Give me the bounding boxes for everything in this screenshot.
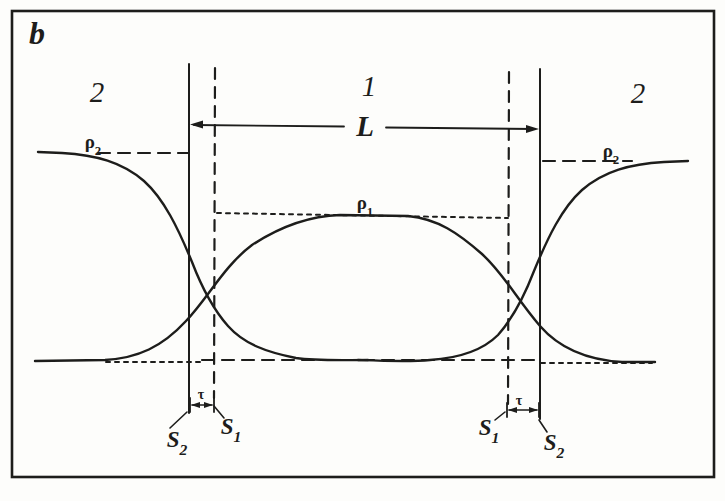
- rho2-curve-right: [358, 161, 688, 361]
- s1-left-base: S: [221, 414, 234, 439]
- s1-right-base: S: [479, 415, 492, 440]
- s1-right-label: S1: [479, 416, 500, 439]
- s1-left-label: S1: [221, 415, 242, 438]
- panel-label: b: [29, 17, 45, 49]
- rho2-right-base: ρ: [603, 140, 613, 161]
- s2-right-sub: 2: [556, 443, 564, 460]
- tau-label-right: τ: [516, 394, 522, 408]
- length-label: L: [356, 112, 374, 141]
- s1-left-sub: 1: [233, 427, 241, 444]
- length-arrow-line-right: [386, 128, 535, 130]
- tau-arrowhead-left-a-icon: [191, 402, 200, 408]
- s2-right-label: S2: [544, 431, 565, 454]
- tau-arrowhead-left-b-icon: [204, 402, 213, 408]
- region-label-right: 2: [631, 79, 646, 108]
- s2-left-label: S2: [167, 428, 188, 451]
- s2-left-base: S: [167, 427, 180, 452]
- rho2-left-base: ρ: [85, 131, 95, 152]
- s2-left-sub: 2: [179, 440, 187, 457]
- rho2-right-label: ρ2: [603, 141, 620, 160]
- tau-label-left: τ: [198, 388, 204, 402]
- rho2-left-label: ρ2: [85, 132, 102, 151]
- length-arrowhead-right-icon: [526, 125, 539, 133]
- rho1-curve: [35, 215, 655, 362]
- region-label-left: 2: [90, 78, 105, 107]
- rho2-left-sub: 2: [95, 142, 101, 157]
- rho2-right-sub: 2: [613, 151, 619, 166]
- tau-arrowhead-right-b-icon: [529, 407, 538, 413]
- rho1-base: ρ: [357, 192, 367, 213]
- length-arrowhead-left-icon: [190, 121, 203, 129]
- length-arrow-line-left: [194, 125, 344, 127]
- surface-line-s1-right: [508, 72, 509, 404]
- figure-panel: b 2 1 2 L ρ2 ρ1 ρ2 τ τ S2 S1 S1 S2: [0, 0, 725, 501]
- rho1-label: ρ1: [357, 193, 374, 212]
- surface-line-s1-left: [214, 68, 215, 398]
- region-label-center: 1: [362, 72, 377, 101]
- rho2-curve-left: [38, 152, 368, 360]
- rho1-sub: 1: [367, 203, 373, 218]
- s1-right-sub: 1: [491, 428, 499, 445]
- s2-right-base: S: [544, 430, 557, 455]
